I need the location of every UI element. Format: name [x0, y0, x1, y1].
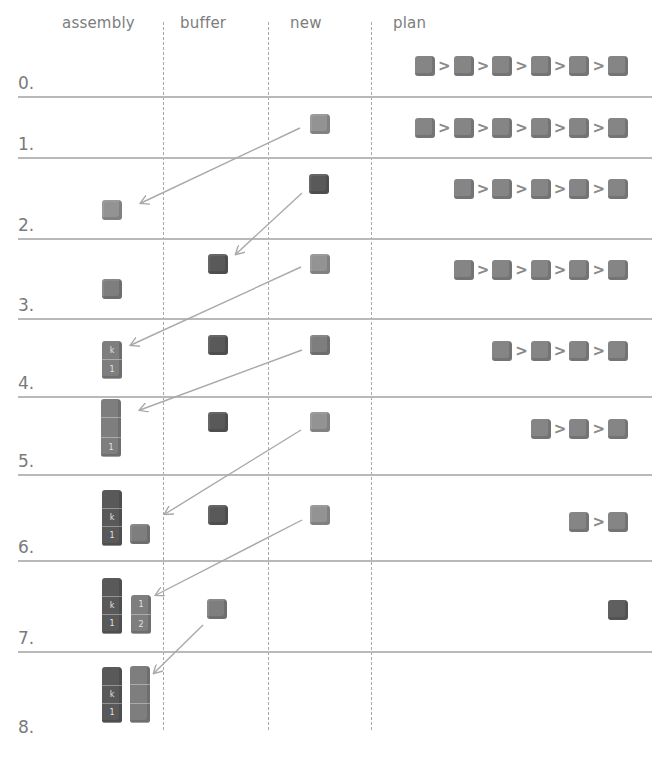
- plan-cube-icon: [569, 512, 589, 532]
- plan-cube-icon: [569, 179, 589, 199]
- assembly-stack-icon: k1: [102, 667, 122, 723]
- assembly-cube-icon: [130, 524, 150, 544]
- row-separator-7: [18, 651, 652, 653]
- row-label-1: 1.: [18, 134, 34, 154]
- row-label-8: 8.: [18, 717, 34, 737]
- row-separator-6: [18, 560, 652, 562]
- stack-segment: k: [102, 509, 122, 528]
- new-cube-icon: [310, 505, 330, 525]
- plan-sequence-arrow: >: [592, 121, 605, 136]
- plan-cube-icon: [415, 56, 435, 76]
- plan-sequence-arrow: >: [554, 182, 567, 197]
- plan-cube-icon: [531, 341, 551, 361]
- stack-segment: 1: [101, 438, 121, 457]
- plan-cube-icon: [492, 56, 512, 76]
- stack-segment: 1: [102, 704, 122, 723]
- stack-segment: [102, 578, 122, 597]
- row-separator-1: [18, 157, 652, 159]
- plan-cube-icon: [454, 56, 474, 76]
- plan-sequence-arrow: >: [592, 422, 605, 437]
- stack-segment: [102, 667, 122, 686]
- plan-cube-icon: [415, 118, 435, 138]
- transfer-arrow: [236, 193, 302, 254]
- stack-segment: [130, 666, 150, 685]
- transfer-arrow: [156, 520, 302, 595]
- plan-sequence-arrow: >: [554, 263, 567, 278]
- plan-row-6: >: [569, 512, 628, 532]
- transfer-arrow: [154, 625, 203, 673]
- plan-cube-icon: [454, 260, 474, 280]
- plan-sequence-arrow: >: [515, 182, 528, 197]
- row-label-7: 7.: [18, 628, 34, 648]
- row-label-4: 4.: [18, 373, 34, 393]
- buffer-cube-icon: [208, 505, 228, 525]
- buffer-cube-icon: [207, 599, 227, 619]
- buffer-cube-icon: [208, 254, 228, 274]
- plan-sequence-arrow: >: [438, 59, 451, 74]
- row-separator-0: [18, 96, 652, 98]
- plan-cube-icon: [531, 260, 551, 280]
- plan-cube-icon: [608, 600, 628, 620]
- plan-cube-icon: [569, 419, 589, 439]
- new-cube-icon: [310, 254, 330, 274]
- plan-row-5: >>: [531, 419, 628, 439]
- stack-segment: [101, 418, 121, 437]
- column-divider-assembly-buffer: [163, 22, 164, 730]
- stack-segment: [130, 704, 150, 723]
- column-divider-new-plan: [371, 22, 372, 730]
- plan-cube-icon: [608, 56, 628, 76]
- plan-sequence-arrow: >: [515, 59, 528, 74]
- row-separator-2: [18, 238, 652, 240]
- row-label-0: 0.: [18, 73, 34, 93]
- plan-sequence-arrow: >: [477, 182, 490, 197]
- transfer-arrow: [131, 267, 301, 345]
- stack-segment: [102, 490, 122, 509]
- assembly-stack-icon: [130, 666, 150, 723]
- plan-cube-icon: [569, 56, 589, 76]
- new-cube-icon: [310, 335, 330, 355]
- plan-cube-icon: [569, 260, 589, 280]
- column-header-buffer: buffer: [180, 14, 226, 32]
- plan-sequence-arrow: >: [592, 344, 605, 359]
- plan-cube-icon: [531, 179, 551, 199]
- plan-cube-icon: [608, 179, 628, 199]
- row-label-2: 2.: [18, 215, 34, 235]
- stack-segment: 1: [131, 595, 151, 615]
- plan-cube-icon: [608, 341, 628, 361]
- plan-cube-icon: [492, 179, 512, 199]
- stack-segment: [130, 685, 150, 704]
- assembly-stack-icon: 12: [131, 595, 151, 634]
- assembly-stack-icon: k1: [102, 490, 122, 546]
- stack-segment: k: [102, 341, 122, 360]
- plan-cube-icon: [569, 118, 589, 138]
- plan-cube-icon: [608, 118, 628, 138]
- new-cube-icon: [310, 114, 330, 134]
- row-label-3: 3.: [18, 295, 34, 315]
- plan-sequence-arrow: >: [554, 59, 567, 74]
- stack-segment: k: [102, 686, 122, 705]
- row-separator-3: [18, 318, 652, 320]
- column-header-assembly: assembly: [62, 14, 135, 32]
- plan-sequence-arrow: >: [554, 121, 567, 136]
- assembly-cube-icon: [102, 279, 122, 299]
- plan-sequence-arrow: >: [515, 344, 528, 359]
- plan-sequence-arrow: >: [554, 344, 567, 359]
- plan-cube-icon: [531, 118, 551, 138]
- plan-row-1: >>>>>: [415, 118, 628, 138]
- column-divider-buffer-new: [268, 22, 269, 730]
- plan-cube-icon: [608, 419, 628, 439]
- plan-sequence-arrow: >: [592, 182, 605, 197]
- plan-sequence-arrow: >: [477, 263, 490, 278]
- assembly-stack-icon: 1: [101, 399, 121, 457]
- assembly-stack-icon: k1: [102, 341, 122, 379]
- transfer-arrow: [165, 430, 301, 514]
- transfer-arrows: [0, 0, 667, 757]
- row-separator-4: [18, 396, 652, 398]
- row-separator-5: [18, 474, 652, 476]
- plan-sequence-arrow: >: [477, 121, 490, 136]
- assembly-cube-icon: [102, 200, 122, 220]
- stack-segment: k: [102, 597, 122, 616]
- plan-cube-icon: [492, 260, 512, 280]
- plan-row-7: [608, 600, 628, 620]
- new-cube-icon: [310, 412, 330, 432]
